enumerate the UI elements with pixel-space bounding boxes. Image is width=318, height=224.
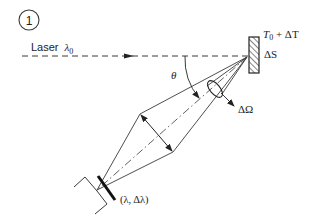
sample-target	[249, 37, 259, 73]
laser-beam	[22, 54, 248, 59]
laser-label: Laser λ0	[31, 41, 73, 56]
solid-angle-label: ΔΩ	[238, 103, 253, 115]
figure-number-badge: 1	[19, 10, 39, 30]
angle-label: θ	[171, 69, 177, 81]
beam-direction-arrow-icon	[124, 54, 134, 59]
area-label: ΔS	[264, 48, 277, 60]
light-scattering-diagram: 1 Laser λ0 T0 + ΔT ΔS ΔΩ θ	[0, 0, 318, 224]
spectral-label: (λ, Δλ)	[120, 194, 149, 206]
temperature-label: T0 + ΔT	[263, 28, 299, 42]
lens-arrow	[141, 115, 172, 151]
figure-number: 1	[26, 14, 33, 28]
angle-arc	[185, 56, 199, 98]
solid-angle-pointer	[221, 93, 234, 106]
